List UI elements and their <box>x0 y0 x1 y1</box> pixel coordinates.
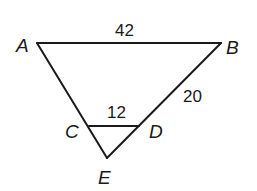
vertex-label-b: B <box>226 37 239 58</box>
vertex-label-e: E <box>98 167 111 188</box>
triangle-diagram: A B C D E 42 20 12 <box>0 0 257 191</box>
measure-label-bd: 20 <box>183 87 202 106</box>
measure-label-cd: 12 <box>107 103 126 122</box>
measure-label-ab: 42 <box>115 21 134 40</box>
segment-be <box>107 43 221 158</box>
vertex-label-c: C <box>65 121 79 142</box>
vertex-label-d: D <box>149 121 163 142</box>
vertex-label-a: A <box>15 35 29 56</box>
